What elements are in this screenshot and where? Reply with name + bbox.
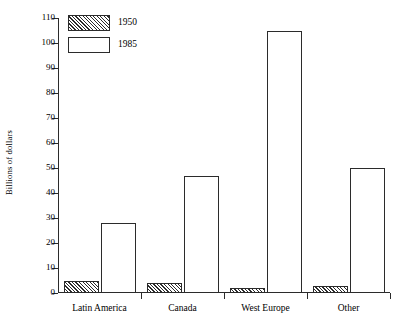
y-tick-label: 60 bbox=[46, 136, 55, 149]
bar-other-1985 bbox=[350, 168, 385, 293]
x-tick-mark bbox=[141, 293, 142, 299]
y-axis-title: Billions of dollars bbox=[0, 0, 18, 325]
y-tick-label: 70 bbox=[46, 111, 55, 124]
bar-west-europe-1950 bbox=[230, 288, 265, 293]
y-tick-label: 40 bbox=[46, 186, 55, 199]
y-tick-label: 30 bbox=[46, 211, 55, 224]
x-tick-mark bbox=[307, 293, 308, 299]
bar-chart: Billions of dollars 1950 1985 0102030405… bbox=[0, 0, 398, 325]
y-tick-label: 80 bbox=[46, 86, 55, 99]
bar-other-1950 bbox=[313, 286, 348, 294]
bar-canada-1985 bbox=[184, 176, 219, 294]
y-tick-label: 0 bbox=[51, 286, 56, 299]
y-tick-label: 100 bbox=[42, 36, 56, 49]
bar-canada-1950 bbox=[147, 283, 182, 293]
x-label-west-europe: West Europe bbox=[241, 303, 290, 313]
bar-latin-america-1950 bbox=[64, 281, 99, 294]
bar-latin-america-1985 bbox=[101, 223, 136, 293]
y-tick-label: 50 bbox=[46, 161, 55, 174]
x-tick-mark bbox=[390, 293, 391, 299]
x-label-other: Other bbox=[338, 303, 360, 313]
x-label-canada: Canada bbox=[168, 303, 197, 313]
plot-area: 0102030405060708090100110 Latin AmericaC… bbox=[58, 18, 390, 293]
bar-west-europe-1985 bbox=[267, 31, 302, 294]
x-label-latin-america: Latin America bbox=[72, 303, 127, 313]
y-axis-line bbox=[58, 18, 59, 293]
y-tick-label: 20 bbox=[46, 236, 55, 249]
x-tick-mark bbox=[224, 293, 225, 299]
y-tick-label: 90 bbox=[46, 61, 55, 74]
y-tick-label: 10 bbox=[46, 261, 55, 274]
y-tick-label: 110 bbox=[42, 11, 55, 24]
